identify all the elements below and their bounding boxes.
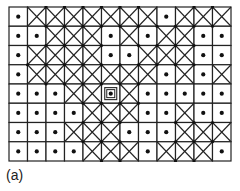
dot-icon [220, 34, 224, 38]
dot-icon [53, 92, 57, 96]
dot-icon [220, 92, 224, 96]
vertex-dot-icon [100, 102, 103, 105]
dot-icon [201, 111, 205, 115]
vertex-dot-icon [211, 121, 214, 124]
vertex-dot-icon [63, 44, 66, 47]
vertex-dot-icon [118, 82, 121, 85]
dot-icon [53, 130, 57, 134]
dot-icon [16, 72, 20, 76]
vertex-dot-icon [81, 63, 84, 66]
vertex-dot-icon [137, 82, 140, 85]
vertex-dot-icon [174, 25, 177, 28]
dot-icon [127, 53, 131, 57]
vertex-dot-icon [100, 44, 103, 47]
vertex-dot-icon [174, 121, 177, 124]
dot-icon [16, 111, 20, 115]
dot-icon [220, 53, 224, 57]
dot-icon [220, 111, 224, 115]
dot-icon [164, 15, 168, 19]
vertex-dot-icon [100, 140, 103, 143]
vertex-dot-icon [100, 82, 103, 85]
vertex-dot-icon [155, 63, 158, 66]
vertex-dot-icon [192, 25, 195, 28]
dot-icon [109, 92, 113, 96]
vertex-dot-icon [26, 63, 29, 66]
dot-icon [201, 72, 205, 76]
dot-icon [16, 130, 20, 134]
vertex-dot-icon [44, 63, 47, 66]
vertex-dot-icon [118, 140, 121, 143]
vertex-dot-icon [211, 140, 214, 143]
dot-icon [146, 130, 150, 134]
vertex-dot-icon [81, 82, 84, 85]
dot-icon [164, 72, 168, 76]
vertex-dot-icon [63, 82, 66, 85]
dot-icon [146, 34, 150, 38]
dot-icon [16, 15, 20, 19]
vertex-dot-icon [63, 63, 66, 66]
vertex-dot-icon [137, 102, 140, 105]
dot-icon [72, 149, 76, 153]
vertex-dot-icon [81, 25, 84, 28]
dot-icon [109, 34, 113, 38]
dot-icon [53, 111, 57, 115]
dot-icon [16, 149, 20, 153]
dot-icon [164, 130, 168, 134]
dot-icon [201, 53, 205, 57]
dot-icon [146, 149, 150, 153]
vertex-dot-icon [63, 25, 66, 28]
dot-icon [146, 111, 150, 115]
vertex-dot-icon [81, 44, 84, 47]
vertex-dot-icon [192, 63, 195, 66]
dot-icon [164, 111, 168, 115]
vertex-dot-icon [211, 25, 214, 28]
vertex-dot-icon [118, 25, 121, 28]
dot-icon [220, 149, 224, 153]
figure-label: (a) [6, 167, 23, 183]
dot-icon [127, 130, 131, 134]
vertex-dot-icon [192, 44, 195, 47]
dot-icon [35, 92, 39, 96]
vertex-dot-icon [155, 44, 158, 47]
vertex-dot-icon [174, 44, 177, 47]
vertex-dot-icon [81, 102, 84, 105]
vertex-dot-icon [155, 25, 158, 28]
vertex-dot-icon [174, 63, 177, 66]
dot-icon [201, 34, 205, 38]
vertex-dot-icon [174, 140, 177, 143]
vertex-dot-icon [44, 82, 47, 85]
dot-icon [35, 149, 39, 153]
dot-icon [164, 92, 168, 96]
vertex-dot-icon [118, 121, 121, 124]
vertex-dot-icon [118, 63, 121, 66]
dot-icon [201, 92, 205, 96]
vertex-dot-icon [81, 121, 84, 124]
dot-icon [53, 149, 57, 153]
dot-icon [16, 53, 20, 57]
vertex-dot-icon [137, 44, 140, 47]
vertex-dot-icon [192, 121, 195, 124]
dot-icon [72, 111, 76, 115]
vertex-dot-icon [192, 140, 195, 143]
dot-icon [35, 34, 39, 38]
vertex-dot-icon [81, 140, 84, 143]
vertex-dot-icon [100, 25, 103, 28]
dot-icon [109, 53, 113, 57]
dot-icon [35, 130, 39, 134]
dot-icon [16, 92, 20, 96]
vertex-dot-icon [137, 63, 140, 66]
vertex-dot-icon [44, 25, 47, 28]
vertex-dot-icon [137, 25, 140, 28]
vertex-dot-icon [100, 63, 103, 66]
dot-icon [183, 92, 187, 96]
dot-icon [16, 34, 20, 38]
vertex-dot-icon [118, 102, 121, 105]
cell-grid [8, 6, 232, 162]
dot-icon [146, 92, 150, 96]
vertex-dot-icon [44, 44, 47, 47]
dot-icon [35, 111, 39, 115]
vertex-dot-icon [100, 121, 103, 124]
